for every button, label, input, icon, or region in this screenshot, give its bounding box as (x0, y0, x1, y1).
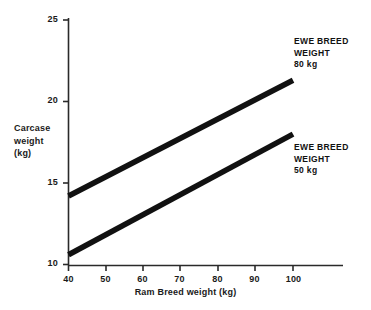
y-tick-label-10: 10 (30, 258, 58, 268)
x-tick-label-60: 60 (128, 274, 157, 284)
chart-figure: 25 20 15 10 40 50 60 70 80 90 100 Carcas… (0, 0, 371, 310)
series-annotation-ewe-50-line-2: WEIGHT (294, 154, 349, 166)
series-annotation-ewe-80-line-2: WEIGHT (294, 48, 349, 60)
x-axis-title: Ram Breed weight (kg) (0, 286, 371, 299)
series-annotation-ewe-50-line-3: 50 kg (294, 165, 349, 177)
x-tick-label-80: 80 (203, 274, 232, 284)
series-line-ewe-50 (69, 134, 294, 255)
series-annotation-ewe-80: EWE BREED WEIGHT 80 kg (294, 36, 349, 71)
x-axis-ticks (69, 266, 294, 272)
y-axis-title-line-3: (kg) (14, 147, 50, 160)
x-tick-label-90: 90 (240, 274, 269, 284)
x-tick-label-40: 40 (54, 274, 83, 284)
y-axis-title-line-1: Carcase (14, 122, 50, 135)
x-tick-label-100: 100 (278, 274, 309, 284)
y-axis-title: Carcase weight (kg) (14, 122, 50, 160)
y-tick-label-20: 20 (30, 95, 58, 105)
y-axis-title-line-2: weight (14, 135, 50, 148)
x-tick-label-70: 70 (165, 274, 194, 284)
y-axis-ticks (63, 20, 69, 265)
series-line-ewe-80 (69, 80, 294, 196)
series-annotation-ewe-50-line-1: EWE BREED (294, 142, 349, 154)
y-tick-label-25: 25 (30, 14, 58, 24)
y-tick-label-15: 15 (30, 177, 58, 187)
series-annotation-ewe-50: EWE BREED WEIGHT 50 kg (294, 142, 349, 177)
series-annotation-ewe-80-line-3: 80 kg (294, 59, 349, 71)
x-tick-label-50: 50 (91, 274, 120, 284)
series-annotation-ewe-80-line-1: EWE BREED (294, 36, 349, 48)
